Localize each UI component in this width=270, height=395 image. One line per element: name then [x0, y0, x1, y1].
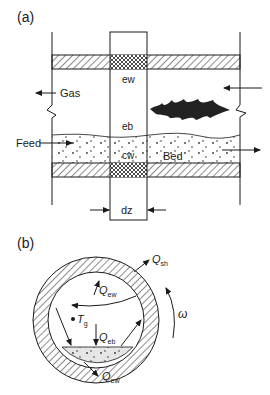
column-wall-cell-bottom [110, 163, 147, 177]
q-eb-label: Qeb [99, 331, 115, 345]
kiln-wall-annulus [33, 257, 159, 383]
gas-label: Gas [60, 87, 81, 99]
q-sh-label: Qsh [152, 253, 168, 267]
wall-to-bed-arrow [56, 308, 71, 345]
panel-a-label: (a) [17, 9, 34, 25]
eb-label: eb [122, 121, 134, 132]
bed-to-wall-arrow [121, 320, 141, 346]
column-wall-cell-top [110, 55, 147, 69]
kiln-heat-transfer-diagram: (a) Gas Feed Bed ew eb [0, 0, 270, 395]
panel-a: (a) Gas Feed Bed ew eb [16, 9, 262, 220]
q-sh-arrow [134, 260, 149, 272]
t-g-label: Tg [77, 313, 88, 328]
panel-b: (b) Qsh Qew Tg Qeb Qew ω [17, 235, 187, 384]
bed-label: Bed [163, 150, 183, 162]
cw-label: cw [122, 150, 135, 161]
burner-flame [150, 99, 230, 120]
radiation-curve-arrow [72, 296, 136, 306]
panel-b-label: (b) [17, 235, 34, 251]
omega-label: ω [178, 307, 187, 321]
ew-label: ew [122, 74, 136, 85]
gas-temperature-point [71, 317, 75, 321]
rotation-arrow [166, 288, 174, 338]
feed-label: Feed [16, 137, 41, 149]
dz-label: dz [121, 204, 133, 216]
q-ew-top-label: Qew [99, 284, 117, 298]
